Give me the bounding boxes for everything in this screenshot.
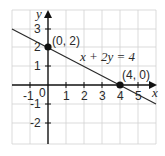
- point-0-2: [44, 43, 51, 50]
- y-axis-arrow-icon: [44, 10, 52, 18]
- origin-label: 0: [39, 86, 46, 100]
- y-tick-1: 1: [34, 59, 41, 73]
- y-axis-label: y: [34, 6, 42, 21]
- equation-label: x + 2y = 4: [79, 49, 136, 64]
- point-label-0-2: (0, 2): [52, 34, 80, 48]
- y-tick-2: 2: [34, 40, 41, 54]
- x-tick-5: 5: [135, 89, 142, 103]
- y-tick-neg2: -2: [30, 116, 41, 130]
- x-axis-label: x: [151, 85, 158, 100]
- point-label-4-0: (4, 0): [122, 68, 150, 82]
- x-tick-neg1: -1: [23, 89, 34, 103]
- x-tick-4: 4: [117, 89, 124, 103]
- y-tick-3: 3: [34, 22, 41, 36]
- graph: y x 3 2 1 -1 -2 -1 0 1 2 3 4 5 (0, 2) (4…: [0, 0, 165, 156]
- x-tick-2: 2: [81, 89, 88, 103]
- x-tick-1: 1: [63, 89, 70, 103]
- x-tick-3: 3: [99, 89, 106, 103]
- point-4-0: [116, 81, 123, 88]
